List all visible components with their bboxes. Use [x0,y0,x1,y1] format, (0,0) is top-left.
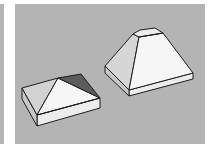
flat-pyramid-cap[interactable] [22,74,100,126]
truncated-pyramid-cap[interactable] [105,28,193,96]
scene-drawing [0,0,220,155]
